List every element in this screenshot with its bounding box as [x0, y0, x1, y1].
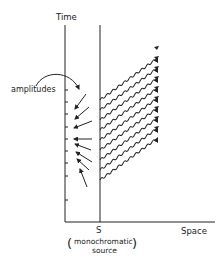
source-paren-close: ) [132, 236, 137, 251]
source-marker-label: S [96, 225, 101, 235]
wave-lines [100, 58, 158, 180]
source-description-line2: source [92, 246, 117, 255]
spacetime-diagram: Time Space S amplitudes ( monochromatic … [0, 0, 219, 268]
wave-arrowheads [154, 46, 159, 130]
amplitudes-label: amplitudes [11, 85, 56, 94]
source-paren-open: ( [67, 236, 72, 251]
source-description-line1: monochromatic [74, 237, 133, 246]
space-axis-label: Space [181, 226, 207, 236]
time-axis-label: Time [55, 12, 77, 22]
amplitude-arrows [74, 94, 92, 187]
